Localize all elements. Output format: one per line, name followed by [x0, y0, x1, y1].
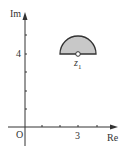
x-tick-label-3: 3 [75, 131, 80, 141]
y-tick-label-4: 4 [16, 49, 21, 59]
z1-point [76, 52, 81, 57]
real-axis-label: Re [107, 133, 118, 143]
imaginary-axis-arrow-icon [23, 12, 28, 20]
real-axis-arrow-icon [110, 125, 118, 130]
origin-label: O [16, 130, 23, 140]
z1-label: z1 [74, 58, 81, 71]
z1-label-subscript: 1 [78, 63, 82, 71]
imaginary-axis-label: Im [10, 9, 21, 19]
